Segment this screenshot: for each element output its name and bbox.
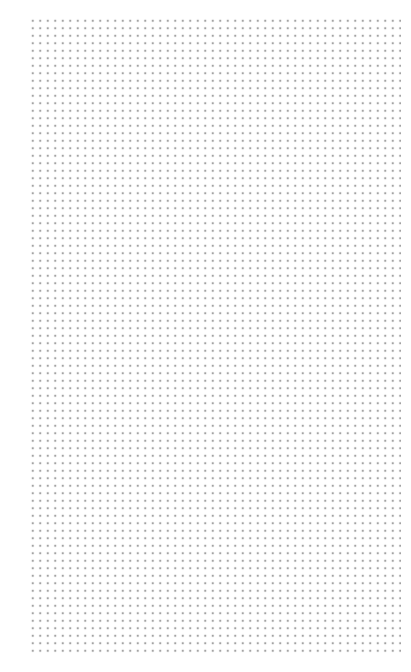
dot-grid-canvas — [29, 17, 401, 655]
